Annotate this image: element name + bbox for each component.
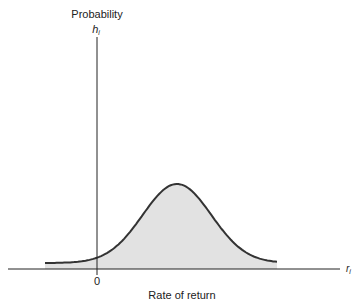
y-axis-symbol: hi [92, 23, 100, 36]
y-axis-label: Probability [71, 8, 123, 20]
x-axis-label: Rate of return [148, 289, 215, 300]
probability-area [45, 184, 277, 269]
chart: Probability hi 0 ri Rate of return [0, 0, 360, 300]
x-axis-symbol: ri [346, 263, 351, 275]
x-tick-label: 0 [94, 275, 100, 287]
